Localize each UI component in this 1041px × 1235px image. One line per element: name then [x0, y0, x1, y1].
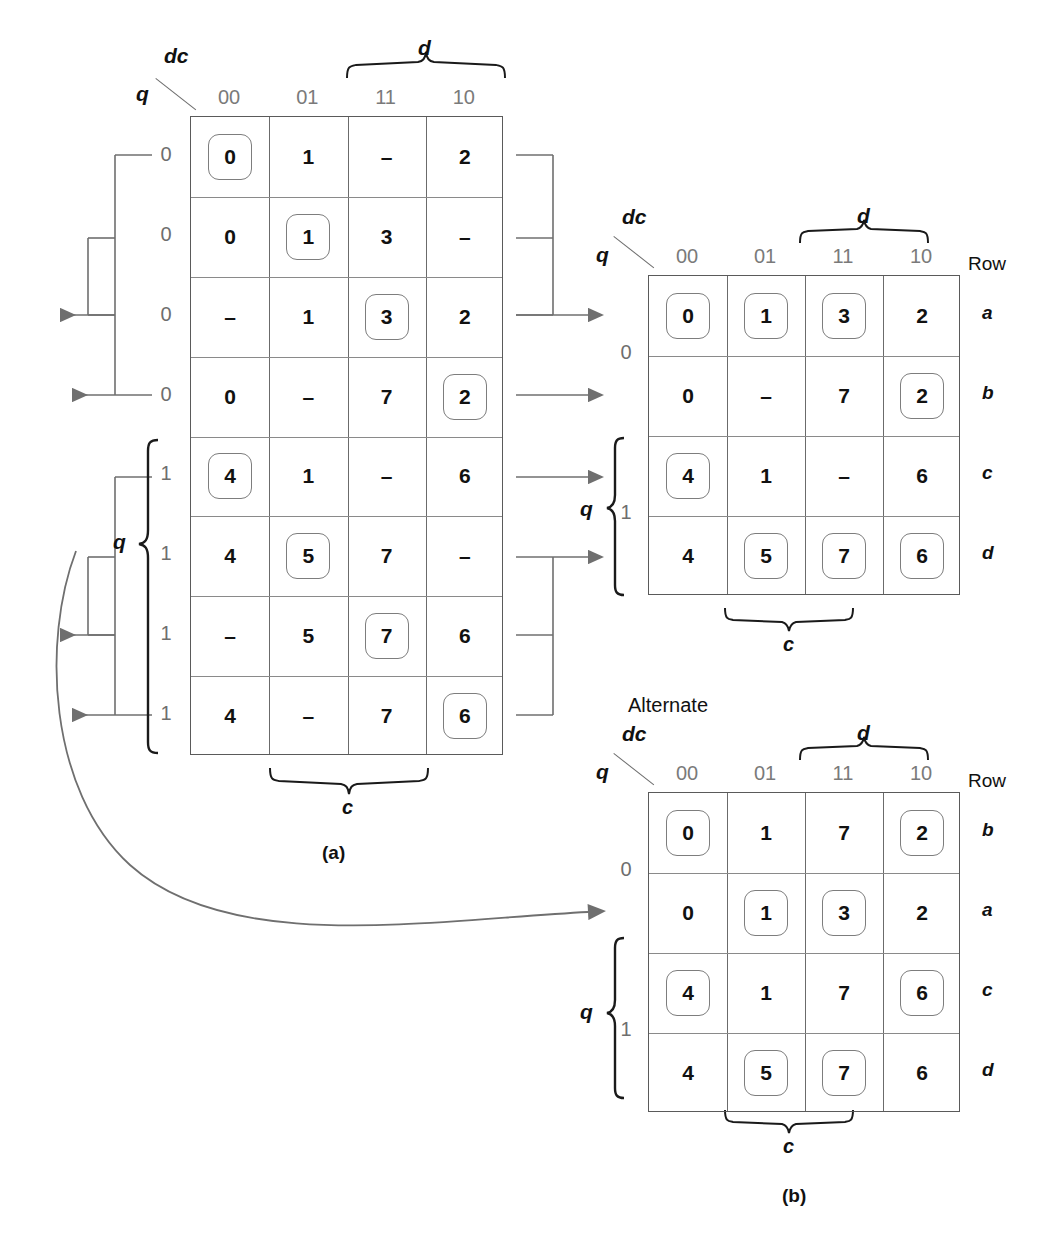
kmap-cell[interactable]: 6 — [883, 436, 961, 516]
kmap-cell[interactable]: 7 — [805, 953, 883, 1033]
row-value-label: 0 — [154, 303, 178, 326]
row-name-label: a — [982, 899, 993, 921]
kmap-cell[interactable]: – — [348, 117, 426, 197]
kmap-cell[interactable]: 1 — [727, 436, 805, 516]
kmap-cell[interactable]: 2 — [426, 277, 504, 357]
kmap-cell[interactable]: 5 — [727, 1033, 805, 1113]
kmap-cell-value-circled: 1 — [286, 214, 330, 260]
kmap-cell[interactable]: 0 — [649, 276, 727, 356]
kmap-cell[interactable]: 0 — [649, 793, 727, 873]
kmap-cell[interactable]: 1 — [269, 437, 347, 517]
kmap-cell[interactable]: – — [727, 356, 805, 436]
kmap-cell[interactable]: 1 — [727, 793, 805, 873]
kmap-cell[interactable]: – — [269, 676, 347, 756]
col-header-10-map-b-top: 10 — [882, 245, 960, 268]
row-value-label: 1 — [154, 702, 178, 725]
kmap-cell[interactable]: 7 — [348, 516, 426, 596]
corner-label-dc-map-a: dc — [164, 44, 189, 68]
col-header-00-map-b-alt: 00 — [648, 762, 726, 785]
right-connector-group-top — [516, 155, 588, 395]
kmap-cell[interactable]: – — [348, 437, 426, 517]
kmap-cell[interactable]: 1 — [727, 953, 805, 1033]
kmap-cell[interactable]: 1 — [727, 276, 805, 356]
kmap-cell-value-circled: 5 — [286, 533, 330, 579]
kmap-cell[interactable]: 2 — [426, 357, 504, 437]
kmap-cell[interactable]: 0 — [191, 197, 269, 277]
kmap-cell[interactable]: 6 — [426, 676, 504, 756]
q-value-label: 0 — [614, 858, 638, 881]
kmap-cell[interactable]: – — [426, 197, 504, 277]
kmap-cell[interactable]: – — [191, 596, 269, 676]
kmap-cell[interactable]: 2 — [883, 356, 961, 436]
kmap-cell[interactable]: 7 — [348, 676, 426, 756]
kmap-cell-value-circled: 0 — [666, 810, 710, 856]
kmap-cell[interactable]: 6 — [883, 1033, 961, 1113]
kmap-cell[interactable]: 7 — [805, 1033, 883, 1113]
kmap-cell-value-circled: 1 — [744, 293, 788, 339]
kmap-cell[interactable]: 6 — [883, 953, 961, 1033]
kmap-cell[interactable]: 6 — [426, 596, 504, 676]
kmap-cell[interactable]: 0 — [191, 117, 269, 197]
kmap-cell-value-circled: 0 — [208, 134, 252, 180]
brace-label-q-map-b-top: q — [580, 497, 593, 521]
kmap-cell[interactable]: 1 — [269, 277, 347, 357]
row-name-label: c — [982, 462, 993, 484]
kmap-cell[interactable]: 3 — [348, 197, 426, 277]
kmap-cell-value: 6 — [459, 464, 471, 488]
kmap-cell[interactable]: 2 — [883, 276, 961, 356]
kmap-cell[interactable]: 3 — [805, 873, 883, 953]
kmap-cell[interactable]: – — [426, 516, 504, 596]
kmap-cell[interactable]: 4 — [191, 437, 269, 517]
kmap-cell[interactable]: 5 — [727, 516, 805, 596]
kmap-cell-value: 0 — [224, 385, 236, 409]
kmap-cell[interactable]: 5 — [269, 516, 347, 596]
kmap-cell-value: 7 — [381, 544, 393, 568]
kmap-cell[interactable]: 3 — [805, 276, 883, 356]
kmap-cell-value: – — [381, 464, 393, 488]
kmap-cell-value: 6 — [459, 624, 471, 648]
kmap-cell-value: 7 — [381, 385, 393, 409]
kmap-cell[interactable]: – — [269, 357, 347, 437]
kmap-cell[interactable]: 7 — [805, 516, 883, 596]
kmap-cell[interactable]: 5 — [269, 596, 347, 676]
kmap-cell-value: – — [459, 225, 471, 249]
kmap-cell[interactable]: 4 — [649, 1033, 727, 1113]
kmap-cell[interactable]: 0 — [649, 873, 727, 953]
kmap-cell[interactable]: – — [805, 436, 883, 516]
kmap-cell[interactable]: 6 — [883, 516, 961, 596]
kmap-cell-value-circled: 6 — [900, 970, 944, 1016]
kmap-cell[interactable]: 4 — [191, 516, 269, 596]
kmap-cell[interactable]: 1 — [269, 117, 347, 197]
kmap-cell[interactable]: 1 — [269, 197, 347, 277]
kmap-cell-value: 7 — [838, 821, 850, 845]
kmap-cell[interactable]: 4 — [649, 953, 727, 1033]
row-header-map-b-top: Row — [968, 253, 1006, 275]
kmap-cell[interactable]: 0 — [649, 356, 727, 436]
kmap-cell[interactable]: – — [191, 277, 269, 357]
brace-label-c-map-b-alt: c — [783, 1135, 794, 1158]
row-name-label: d — [982, 542, 994, 564]
kmap-b-top: 01320–7241–64576 — [648, 275, 960, 595]
kmap-cell[interactable]: 2 — [883, 793, 961, 873]
kmap-cell[interactable]: 2 — [426, 117, 504, 197]
corner-label-q-map-b-alt: q — [596, 760, 609, 784]
left-connector-group-bottom — [60, 477, 152, 715]
kmap-cell-value: – — [224, 305, 236, 329]
kmap-cell[interactable]: 7 — [348, 596, 426, 676]
kmap-cell[interactable]: 7 — [805, 356, 883, 436]
kmap-cell-value-circled: 2 — [900, 810, 944, 856]
kmap-cell[interactable]: 7 — [805, 793, 883, 873]
kmap-cell[interactable]: 1 — [727, 873, 805, 953]
kmap-cell[interactable]: 4 — [191, 676, 269, 756]
kmap-cell[interactable]: 4 — [649, 516, 727, 596]
col-header-10-map-a: 10 — [425, 86, 503, 109]
kmap-cell[interactable]: 6 — [426, 437, 504, 517]
kmap-cell[interactable]: 2 — [883, 873, 961, 953]
kmap-cell[interactable]: 4 — [649, 436, 727, 516]
kmap-cell[interactable]: 7 — [348, 357, 426, 437]
brace-c-map-b-top — [725, 608, 853, 631]
kmap-cell[interactable]: 0 — [191, 357, 269, 437]
corner-label-dc-map-b-alt: dc — [622, 722, 647, 746]
kmap-cell[interactable]: 3 — [348, 277, 426, 357]
kmap-cell-value: 2 — [916, 901, 928, 925]
